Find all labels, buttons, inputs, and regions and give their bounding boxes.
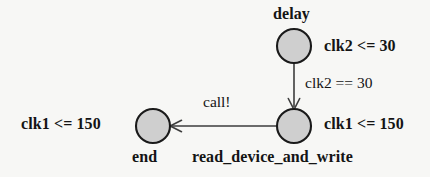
edge-delay-to-read[interactable] [288,63,299,110]
edge-label-guard-clk2: clk2 == 30 [305,75,372,91]
node-invariant-end: clk1 <= 150 [21,116,101,132]
edge-label-sync-call: call! [203,94,231,110]
node-label-read-device-and-write: read_device_and_write [192,149,353,165]
node-circle-read-device-and-write[interactable] [277,109,311,143]
node-circle-end[interactable] [136,109,170,143]
node-label-end: end [132,149,157,165]
node-invariant-delay: clk2 <= 30 [324,38,396,54]
node-label-delay: delay [273,6,310,22]
edge-read-to-end[interactable] [170,120,277,131]
node-invariant-read-device-and-write: clk1 <= 150 [324,116,404,132]
state-diagram-canvas: delay end read_device_and_write clk2 <= … [0,0,430,177]
node-circle-delay[interactable] [277,29,311,63]
